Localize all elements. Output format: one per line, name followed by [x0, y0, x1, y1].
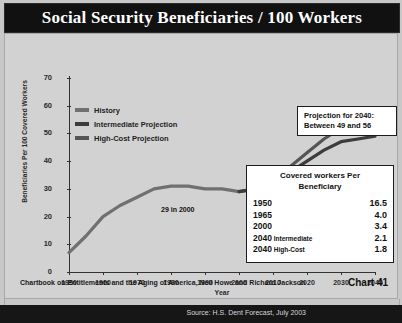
- callout-projection-line2: Between 49 and 56: [304, 121, 390, 131]
- callout-projection-2040: Projection for 2040: Between 49 and 56: [297, 106, 397, 136]
- legend-item-intermediate: Intermediate Projection: [75, 118, 177, 130]
- table-cell-year: 1965: [253, 210, 272, 222]
- chart-number: Chart 41: [348, 277, 388, 288]
- table-row: 19654.0: [253, 210, 387, 222]
- table-body: 195016.519654.020003.42040 Intermediate2…: [253, 198, 387, 256]
- table-row: 20003.4: [253, 221, 387, 233]
- table-title: Covered workers Per Beneficiary: [253, 170, 387, 192]
- table-cell-value: 16.5: [369, 198, 387, 210]
- annotation-29-in-2000: 29 in 2000: [161, 206, 194, 213]
- table-cell-year: 2040 Intermediate: [253, 233, 312, 245]
- page-title: Social Security Beneficiaries / 100 Work…: [42, 8, 362, 28]
- legend-label-intermediate: Intermediate Projection: [94, 120, 177, 129]
- table-row: 2040 Intermediate2.1: [253, 233, 387, 245]
- table-cell-year: 1950: [253, 198, 272, 210]
- legend-item-history: History: [75, 104, 177, 116]
- footer-note: Chartbook on Entitlements and the Aging …: [20, 279, 305, 286]
- legend-label-high-cost: High-Cost Projection: [94, 134, 169, 143]
- legend-item-high-cost: High-Cost Projection: [75, 132, 177, 144]
- table-cell-value: 1.8: [374, 244, 387, 256]
- chart-legend: History Intermediate Projection High-Cos…: [75, 104, 177, 146]
- legend-swatch-intermediate-icon: [75, 122, 89, 126]
- chart-panel: 010203040506070 195019601970198019902000…: [4, 33, 398, 299]
- legend-swatch-history-icon: [75, 108, 89, 112]
- callout-covered-workers-table: Covered workers Per Beneficiary 195016.5…: [246, 165, 394, 263]
- table-cell-year: 2000: [253, 221, 272, 233]
- table-title-line1: Covered workers Per: [280, 171, 360, 180]
- table-title-line2: Beneficiary: [298, 182, 341, 191]
- table-cell-value: 3.4: [374, 221, 387, 233]
- legend-label-history: History: [94, 106, 120, 115]
- series-line-history: [69, 186, 239, 253]
- source-text: Source: H.S. Dent Forecast, July 2003: [187, 309, 306, 316]
- table-cell-qualifier: High-Cost: [272, 246, 305, 253]
- callout-projection-line1: Projection for 2040:: [304, 111, 390, 121]
- chart-title-bar: Social Security Beneficiaries / 100 Work…: [4, 3, 400, 33]
- table-cell-qualifier: Intermediate: [272, 235, 312, 242]
- legend-swatch-high-cost-icon: [75, 136, 89, 140]
- table-cell-value: 4.0: [374, 210, 387, 222]
- table-row: 195016.5: [253, 198, 387, 210]
- table-cell-value: 2.1: [374, 233, 387, 245]
- chart-screenshot: Social Security Beneficiaries / 100 Work…: [0, 0, 402, 323]
- table-cell-year: 2040 High-Cost: [253, 244, 305, 256]
- table-row: 2040 High-Cost1.8: [253, 244, 387, 256]
